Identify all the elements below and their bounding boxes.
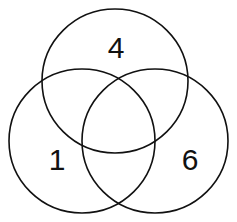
- venn-diagram: 4 1 6: [0, 0, 237, 222]
- label-top: 4: [108, 31, 125, 64]
- label-left: 1: [49, 143, 66, 176]
- label-right: 6: [182, 143, 199, 176]
